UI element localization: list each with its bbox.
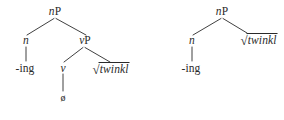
root-label-wrapper: √twinkl — [241, 33, 278, 47]
node-n-head-right: n — [189, 35, 195, 47]
node-label-proj: P — [55, 5, 62, 17]
node-root-twinkl-left: √twinkl — [93, 62, 130, 76]
root-body-text: twinkl — [99, 62, 130, 75]
syntax-tree-figure: nP n vP -ing v √twinkl ø nP n — [0, 0, 284, 120]
terminal-ing-left: -ing — [16, 63, 35, 75]
tree-edges-left — [0, 0, 142, 120]
terminal-null-morpheme-left: ø — [60, 93, 65, 103]
syntax-tree-left: nP n vP -ing v √twinkl ø — [0, 0, 142, 120]
tree-edges-right — [142, 0, 284, 120]
terminal-ing-right: -ing — [182, 63, 201, 75]
node-v-head-left: v — [60, 63, 65, 75]
node-nP-root-left: nP — [49, 6, 61, 18]
root-body-text: twinkl — [247, 33, 278, 46]
node-root-twinkl-right: √twinkl — [241, 33, 278, 47]
node-vP-left: vP — [79, 35, 91, 47]
node-label-proj: P — [222, 5, 229, 17]
node-nP-root-right: nP — [216, 6, 228, 18]
node-label-proj: P — [84, 34, 91, 46]
node-n-head-left: n — [23, 35, 29, 47]
syntax-tree-right: nP n √twinkl -ing — [142, 0, 284, 120]
root-label-wrapper: √twinkl — [93, 62, 130, 76]
